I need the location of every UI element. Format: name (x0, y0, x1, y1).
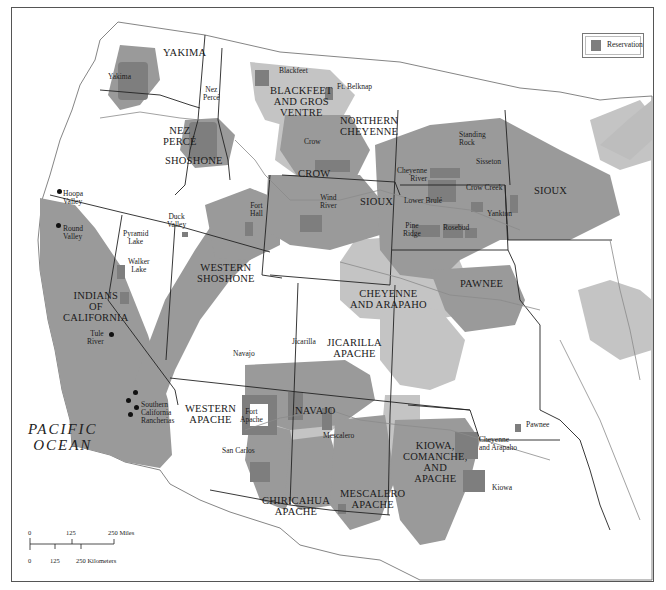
res-label-standing-rock: StandingRock (459, 131, 486, 147)
tribe-label-sioux-west: SIOUX (360, 196, 393, 207)
tribe-label-crow: CROW (298, 168, 330, 179)
scale-km-0: 0 (28, 557, 31, 564)
res-label-tule-river: TuleRiver (87, 330, 104, 346)
tribe-label-cheyenne-arapaho: CHEYENNEAND ARAPAHO (350, 288, 427, 310)
tribe-label-sioux-east: SIOUX (534, 185, 567, 196)
tribe-label-jicarilla-apache: JICARILLAAPACHE (327, 337, 382, 359)
ocean-label-line1: PACIFIC (28, 422, 98, 438)
res-label-rosebud: Rosebud (443, 224, 469, 232)
tribe-label-chiricahua-apache: CHIRICAHUAAPACHE (262, 495, 330, 517)
tribe-label-blackfeet-gros-ventre: BLACKFEETAND GROSVENTRE (270, 85, 332, 118)
scale-miles-125: 125 (66, 529, 76, 536)
res-label-cheyenne-arapaho: Cheyenneand Arapaho (479, 436, 517, 452)
legend-label: Reservation (607, 40, 643, 49)
res-label-duck-valley: DuckValley (167, 213, 186, 229)
ocean-label: PACIFIC OCEAN (28, 422, 98, 454)
tribe-label-yakima: YAKIMA (163, 47, 206, 58)
res-label-crow-creek: Crow Creek (466, 184, 502, 192)
rancheria-dot-4 (128, 412, 133, 417)
res-label-walker-lake: WalkerLake (128, 258, 149, 274)
tribe-label-northern-cheyenne: NORTHERNCHEYENNE (340, 115, 398, 137)
res-label-yakima: Yakima (108, 73, 131, 81)
rancheria-dot-2 (126, 398, 131, 403)
res-label-yankton: Yankton (487, 210, 512, 218)
hoopa-valley-dot (57, 189, 62, 194)
res-label-blackfeet: Blackfeet (279, 67, 308, 75)
map-legend: Reservation (582, 33, 644, 58)
tribe-label-mescalero-apache: MESCALEROAPACHE (340, 488, 405, 510)
res-label-pyramid-lake: PyramidLake (123, 230, 148, 246)
rancheria-dot-1 (133, 390, 138, 395)
tribe-label-western-shoshone: WESTERNSHOSHONE (197, 262, 255, 284)
res-label-kiowa: Kiowa (492, 484, 512, 492)
scale-miles-0: 0 (28, 529, 31, 536)
res-label-pine-ridge: PineRidge (403, 222, 421, 238)
scale-bar (28, 536, 123, 556)
res-label-ft-belknap: Ft. Belknap (337, 83, 372, 91)
res-label-nez-perce: NezPercé (203, 86, 220, 102)
res-label-navajo: Navajo (233, 350, 255, 358)
scale-km-250: 250 Kilometers (76, 557, 116, 564)
res-label-lower-brule: Lower Brulé (404, 197, 442, 205)
tule-river-dot (109, 332, 114, 337)
reservation-swatch (591, 40, 601, 51)
res-label-san-carlos: San Carlos (222, 447, 255, 455)
res-label-wind-river: WindRiver (320, 194, 337, 210)
tribe-label-nez-perce: NEZPERCÉ (163, 125, 197, 147)
res-label-cheyenne-river: CheyenneRiver (397, 167, 427, 183)
res-label-fort-hall: FortHall (250, 202, 263, 218)
tribe-label-western-apache: WESTERNAPACHE (185, 403, 236, 425)
round-valley-dot (56, 223, 61, 228)
res-label-crow: Crow (304, 138, 321, 146)
scale-miles-250: 250 Miles (108, 529, 134, 536)
res-label-southern-california-rancherias: SouthernCaliforniaRancherias (141, 401, 174, 425)
tribe-label-kiowa-comanche-apache: KIOWA,COMANCHE,ANDAPACHE (403, 440, 468, 484)
ocean-label-line2: OCEAN (28, 438, 98, 454)
res-label-mescalero: Mescalero (323, 432, 354, 440)
res-label-pawnee: Pawnee (526, 421, 549, 429)
res-label-fort-apache: FortApache (240, 408, 263, 424)
res-label-jicarilla: Jicarilla (292, 338, 316, 346)
res-label-hoopa-valley: HoopaValley (63, 190, 83, 206)
scale-km-125: 125 (50, 557, 60, 564)
tribe-label-navajo: NAVAJO (295, 405, 336, 416)
tribe-label-indians-of-california: INDIANSOFCALIFORNIA (63, 290, 129, 323)
tribe-label-pawnee: PAWNEE (460, 278, 503, 289)
res-label-round-valley: RoundValley (63, 225, 83, 241)
res-label-sisseton: Sisseton (476, 158, 501, 166)
tribe-label-shoshone: SHOSHONE (165, 155, 223, 166)
rancheria-dot-3 (134, 405, 139, 410)
